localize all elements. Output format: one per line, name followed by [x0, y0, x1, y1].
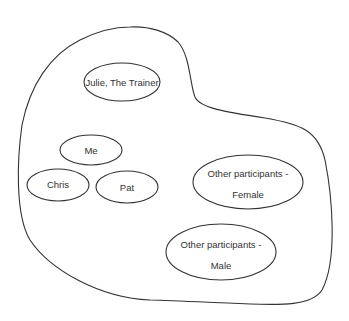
female-label-line2: Female [232, 189, 264, 200]
male-label-line1: Other participants - [181, 239, 262, 250]
node-me: Me [60, 135, 122, 165]
female-label-line1: Other participants - [208, 168, 289, 179]
female-ellipse [193, 155, 303, 209]
julie-label: Julie, The Trainer [85, 77, 158, 88]
node-other-female: Other participants - Female [193, 155, 303, 209]
group-diagram: Julie, The Trainer Me Chris Pat Other pa… [0, 0, 349, 321]
pat-label: Pat [120, 182, 135, 193]
male-ellipse [166, 224, 276, 280]
chris-label: Chris [47, 179, 69, 190]
node-chris: Chris [27, 169, 89, 201]
node-julie: Julie, The Trainer [84, 63, 160, 101]
me-label: Me [84, 145, 97, 156]
node-other-male: Other participants - Male [166, 224, 276, 280]
male-label-line2: Male [211, 260, 232, 271]
node-pat: Pat [96, 171, 158, 203]
